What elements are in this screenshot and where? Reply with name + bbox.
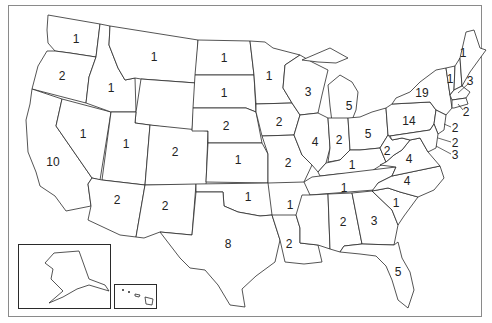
alaska-shape — [19, 245, 112, 310]
label-or: 2 — [59, 70, 66, 82]
label-nv: 1 — [80, 128, 87, 140]
label-md: 3 — [452, 149, 459, 161]
label-me: 1 — [460, 47, 467, 59]
label-sd: 1 — [221, 87, 228, 99]
label-ok: 1 — [245, 191, 252, 203]
hawaii-shape — [115, 285, 158, 310]
label-ks: 1 — [235, 154, 242, 166]
label-ga: 3 — [371, 215, 378, 227]
label-ky: 1 — [349, 159, 356, 171]
label-az: 2 — [114, 194, 121, 206]
label-ut: 1 — [123, 138, 130, 150]
label-tx: 8 — [225, 238, 232, 250]
label-la: 2 — [286, 238, 293, 250]
label-mt: 1 — [151, 51, 158, 63]
label-in: 2 — [336, 134, 343, 146]
label-co: 2 — [172, 146, 179, 158]
label-ne: 2 — [223, 120, 230, 132]
alaska-inset — [18, 244, 111, 309]
label-wi: 3 — [305, 86, 312, 98]
state-ms — [296, 194, 330, 249]
label-ar: 1 — [287, 199, 294, 211]
label-wa: 1 — [73, 33, 80, 45]
label-wv: 2 — [384, 145, 391, 157]
label-va: 4 — [406, 153, 413, 165]
label-al: 2 — [340, 216, 347, 228]
label-mn: 1 — [266, 70, 273, 82]
label-ny: 19 — [415, 87, 428, 99]
label-nm: 2 — [162, 200, 169, 212]
label-vt: 1 — [447, 73, 454, 85]
label-mi: 5 — [346, 100, 353, 112]
state-az — [88, 178, 145, 237]
label-sc: 1 — [393, 197, 400, 209]
label-ma: 3 — [467, 75, 474, 87]
label-tn: 1 — [341, 182, 348, 194]
label-pa: 14 — [402, 115, 415, 127]
label-oh: 5 — [365, 128, 372, 140]
label-nd: 1 — [221, 52, 228, 64]
state-fl — [340, 242, 414, 308]
state-wy — [135, 79, 196, 131]
label-il: 4 — [312, 136, 319, 148]
label-fl: 5 — [395, 266, 402, 278]
label-ca: 10 — [46, 156, 59, 168]
label-nj: 2 — [452, 122, 459, 134]
label-id: 1 — [108, 82, 115, 94]
label-ct: 2 — [463, 106, 470, 118]
hawaii-inset — [114, 284, 157, 309]
label-ia: 2 — [276, 116, 283, 128]
label-mo: 2 — [285, 157, 292, 169]
label-nc: 4 — [404, 175, 411, 187]
